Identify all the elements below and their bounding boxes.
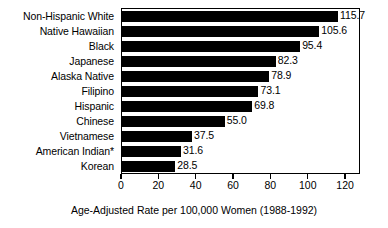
bar — [122, 101, 252, 112]
bar — [122, 116, 225, 127]
category-label: Hispanic — [75, 99, 114, 114]
bar — [122, 26, 319, 37]
bars-layer — [122, 9, 359, 173]
category-label: Non-Hispanic White — [23, 9, 114, 24]
category-label: Japanese — [69, 54, 114, 69]
x-axis-tick-label: 100 — [299, 179, 317, 192]
bar — [122, 71, 269, 82]
x-axis-tick-label: 120 — [336, 179, 354, 192]
plot-area — [121, 8, 360, 174]
category-label: Chinese — [76, 114, 114, 129]
bar — [122, 56, 276, 67]
x-axis-tick-label: 40 — [190, 179, 202, 192]
bar — [122, 161, 175, 172]
x-axis-tick-label: 20 — [153, 179, 165, 192]
category-axis-labels: Non-Hispanic WhiteNative HawaiianBlackJa… — [0, 8, 118, 174]
bar — [122, 146, 181, 157]
axis-caption: Age-Adjusted Rate per 100,000 Women (198… — [0, 203, 388, 217]
category-label: Vietnamese — [60, 129, 114, 144]
x-axis-tick-label: 60 — [227, 179, 239, 192]
x-axis-tick-label: 0 — [118, 179, 124, 192]
bar — [122, 86, 258, 97]
x-axis-tick-label: 80 — [265, 179, 277, 192]
category-label: Filipino — [82, 84, 114, 99]
category-label: Native Hawaiian — [40, 24, 114, 39]
category-label: American Indian* — [36, 144, 114, 159]
bar — [122, 11, 338, 22]
bar — [122, 131, 192, 142]
bar — [122, 41, 300, 52]
bar-chart-figure: Non-Hispanic WhiteNative HawaiianBlackJa… — [0, 0, 388, 228]
category-label: Korean — [81, 159, 114, 174]
category-label: Black — [89, 39, 114, 54]
category-label: Alaska Native — [51, 69, 114, 84]
x-axis: 020406080100120 — [121, 174, 360, 196]
